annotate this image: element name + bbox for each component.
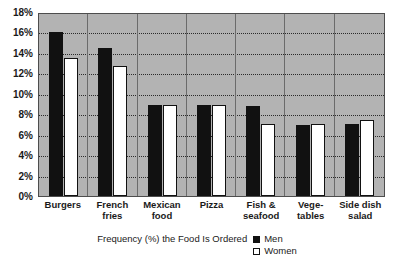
x-axis-label-3: Pizza: [187, 199, 237, 233]
bar-group: [138, 14, 187, 196]
bar-chart: 18%16%14%12%10%8%6%4%2%0% BurgersFrenchf…: [0, 0, 394, 261]
x-axis-label-line: Burgers: [39, 199, 87, 210]
x-axis-label-line: French: [89, 199, 137, 210]
bar-group: [236, 14, 285, 196]
y-axis-tick-10: 10%: [13, 90, 33, 100]
bar-men: [197, 105, 211, 196]
bar-women: [113, 66, 127, 196]
y-axis-tick-12: 12%: [13, 69, 33, 79]
bar-men: [148, 105, 162, 196]
open-square-icon: [253, 248, 260, 255]
x-axis-label-line: Side dish: [336, 199, 384, 210]
x-axis-label-6: Side dishsalad: [335, 199, 385, 233]
x-axis-label-2: Mexicanfood: [137, 199, 187, 233]
bar-women: [360, 120, 374, 196]
legend-label-women: Women: [264, 245, 297, 257]
x-axis-label-line: seafood: [237, 210, 285, 221]
y-axis-tick-0: 0%: [19, 192, 33, 202]
y-axis-tick-16: 16%: [13, 28, 33, 38]
y-axis-tick-14: 14%: [13, 49, 33, 59]
bar-men: [345, 124, 359, 196]
bar-women: [212, 105, 226, 196]
x-axis-label-line: Mexican: [138, 199, 186, 210]
legend-items: Men Women: [253, 233, 297, 257]
y-axis-tick-4: 4%: [19, 151, 33, 161]
y-axis-tick-8: 8%: [19, 110, 33, 120]
axis-title: Frequency (%) the Food Is Ordered: [97, 233, 247, 245]
x-axis-label-0: Burgers: [38, 199, 88, 233]
bar-men: [49, 32, 63, 196]
bar-women: [261, 124, 275, 196]
x-axis-label-line: Vege-: [287, 199, 335, 210]
bar-men: [246, 106, 260, 196]
filled-square-icon: [253, 236, 260, 243]
legend: Frequency (%) the Food Is Ordered Men Wo…: [0, 233, 394, 259]
bar-women: [163, 105, 177, 196]
x-axis-label-line: Fish &: [237, 199, 285, 210]
x-axis-label-4: Fish &seafood: [236, 199, 286, 233]
y-axis-tick-6: 6%: [19, 131, 33, 141]
bar-group: [39, 14, 88, 196]
bar-men: [296, 125, 310, 196]
legend-entry-men: Men: [253, 233, 297, 245]
x-axis-label-line: Pizza: [188, 199, 236, 210]
y-axis-tick-2: 2%: [19, 172, 33, 182]
x-axis-label-line: salad: [336, 210, 384, 221]
bar-group: [88, 14, 137, 196]
x-axis-label-line: tables: [287, 210, 335, 221]
y-axis-tick-18: 18%: [13, 8, 33, 18]
bar-group: [285, 14, 334, 196]
bar-women: [311, 124, 325, 196]
bar-group: [187, 14, 236, 196]
legend-entry-women: Women: [253, 245, 297, 257]
plot-area: [38, 13, 385, 197]
x-axis-label-5: Vege-tables: [286, 199, 336, 233]
y-axis-labels: 18%16%14%12%10%8%6%4%2%0%: [0, 0, 36, 205]
x-axis-labels: BurgersFrenchfriesMexicanfoodPizzaFish &…: [38, 199, 385, 233]
x-axis-label-line: food: [138, 210, 186, 221]
bar-women: [64, 58, 78, 196]
x-axis-label-1: Frenchfries: [88, 199, 138, 233]
legend-label-men: Men: [264, 233, 282, 245]
bar-groups: [39, 14, 384, 196]
bar-group: [335, 14, 384, 196]
bar-men: [98, 48, 112, 196]
x-axis-label-line: fries: [89, 210, 137, 221]
